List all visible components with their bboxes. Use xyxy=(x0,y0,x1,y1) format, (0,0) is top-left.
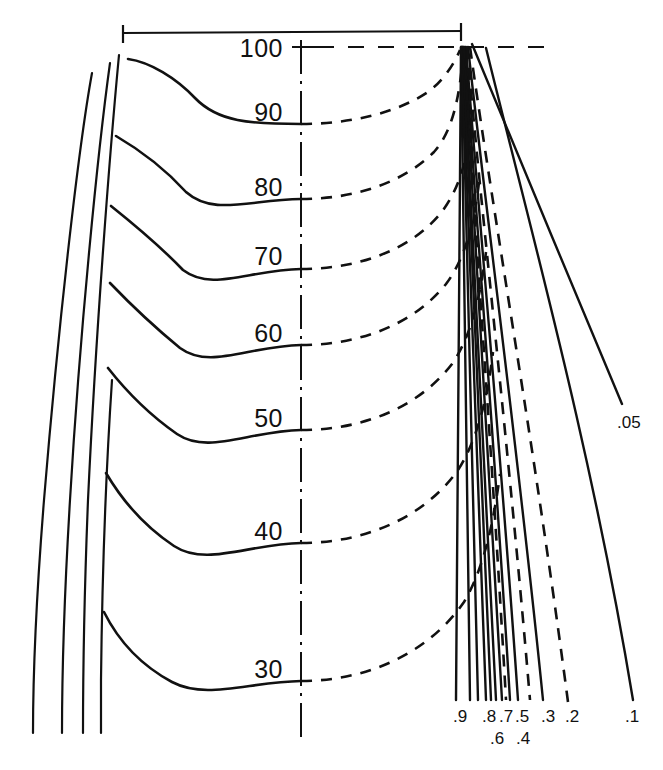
solid-contours xyxy=(104,59,301,690)
left-curve-2 xyxy=(62,63,110,733)
radial-line-0p9 xyxy=(456,47,461,700)
radial-label-row1-group: .9 .8 .7 .5 .3 .2 xyxy=(453,707,579,726)
left-curve-family xyxy=(33,55,119,733)
figure-root: 100 90 80 70 60 50 40 30 .9 .8 .7 .5 .3 … xyxy=(0,0,663,770)
radial-line-0p1 xyxy=(486,48,633,700)
radial-label-0p8: .8 xyxy=(482,707,496,726)
contour-60-dashed xyxy=(301,182,479,345)
contour-label-40: 40 xyxy=(254,517,283,545)
top-axis-rule xyxy=(122,31,462,33)
radial-label-0p6: .6 xyxy=(490,729,504,748)
contour-70-dashed xyxy=(301,118,472,269)
contour-label-60: 60 xyxy=(254,319,283,347)
contour-label-30: 30 xyxy=(254,655,283,683)
contour-80-dashed xyxy=(301,66,462,199)
radial-label-0p2: .2 xyxy=(565,707,579,726)
top-axis-rule-group xyxy=(122,23,462,43)
radial-fan xyxy=(456,44,633,702)
contour-90-dashed xyxy=(301,50,460,124)
contour-label-90: 90 xyxy=(254,98,283,126)
radial-label-0p4: .4 xyxy=(516,729,530,748)
left-curve-4 xyxy=(101,380,112,733)
radial-label-0p7: .7 xyxy=(499,707,513,726)
contour-label-80: 80 xyxy=(254,173,283,201)
radial-label-row2-group: .6 .4 xyxy=(490,729,530,748)
contour-40-dashed xyxy=(301,352,493,543)
radial-label-0p9: .9 xyxy=(453,707,467,726)
radial-line-inner-c xyxy=(463,47,491,700)
contour-label-70: 70 xyxy=(254,242,283,270)
radial-line-0p2 xyxy=(470,47,568,702)
radial-label-0p05: .05 xyxy=(617,413,641,432)
contour-label-group: 100 90 80 70 60 50 40 30 xyxy=(240,34,283,683)
contour-label-50: 50 xyxy=(254,404,283,432)
radial-label-0p5: .5 xyxy=(515,707,529,726)
contour-label-100: 100 xyxy=(240,34,283,62)
radial-line-0p05 xyxy=(472,44,622,404)
contour-nomograph-chart: 100 90 80 70 60 50 40 30 .9 .8 .7 .5 .3 … xyxy=(0,0,663,770)
radial-label-0p1: .1 xyxy=(625,707,639,726)
radial-label-0p3: .3 xyxy=(541,707,555,726)
